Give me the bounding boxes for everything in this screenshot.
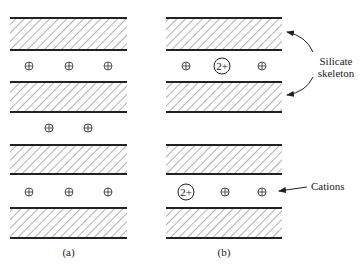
cation-icon bbox=[258, 188, 266, 196]
cation-icon bbox=[182, 62, 190, 70]
svg-text:2+: 2+ bbox=[216, 60, 228, 72]
cation-icon bbox=[25, 62, 33, 70]
cations-label: Cations bbox=[311, 180, 345, 192]
silicate-slab bbox=[166, 18, 282, 50]
cation-icon bbox=[65, 188, 73, 196]
silicate-slab bbox=[10, 145, 127, 174]
silicate-slab bbox=[166, 82, 282, 112]
arrow-to-top-slab-icon bbox=[287, 32, 313, 52]
cation-icon bbox=[104, 62, 112, 70]
arrow-to-cations-icon bbox=[279, 187, 307, 191]
panels: (a)2+2+(b) bbox=[10, 18, 282, 259]
panel-b: 2+2+(b) bbox=[166, 18, 282, 259]
panel-caption-b: (b) bbox=[218, 246, 231, 259]
cation-icon bbox=[25, 188, 33, 196]
silicate-slab bbox=[166, 208, 282, 238]
cations-annotation: Cations bbox=[279, 180, 345, 192]
cation-icon bbox=[258, 62, 266, 70]
divalent-cation-icon: 2+ bbox=[214, 58, 230, 74]
silicate-label-line1: Silicate bbox=[320, 55, 353, 67]
silicate-slab bbox=[10, 18, 127, 50]
cation-icon bbox=[84, 124, 92, 132]
silicate-skeleton-annotation: Silicate skeleton bbox=[287, 32, 355, 95]
cation-icon bbox=[104, 188, 112, 196]
cation-icon bbox=[221, 188, 229, 196]
silicate-slab bbox=[166, 145, 282, 174]
divalent-cation-icon: 2+ bbox=[178, 184, 194, 200]
cation-icon bbox=[45, 124, 53, 132]
panel-a: (a) bbox=[10, 18, 127, 259]
panel-caption-a: (a) bbox=[62, 246, 75, 259]
layered-silicate-diagram: (a)2+2+(b) Silicate skeleton Cations bbox=[0, 0, 363, 274]
silicate-slab bbox=[10, 208, 127, 238]
silicate-label-line2: skeleton bbox=[318, 67, 355, 79]
cation-icon bbox=[65, 62, 73, 70]
svg-text:2+: 2+ bbox=[180, 186, 192, 198]
arrow-to-second-slab-icon bbox=[287, 77, 313, 95]
silicate-slab bbox=[10, 82, 127, 112]
